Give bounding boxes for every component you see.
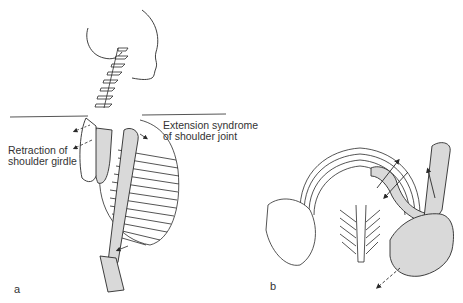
retraction-of-shoulder-girdle-label: Retraction of shoulder girdle xyxy=(8,145,77,167)
label-line-2: of shoulder joint xyxy=(163,131,258,142)
reference-line-right xyxy=(142,114,226,115)
label-line-2: shoulder girdle xyxy=(8,156,77,167)
extension-syndrome-label: Extension syndrome of shoulder joint xyxy=(163,120,258,142)
panel-letter-b: b xyxy=(270,280,276,292)
shoulder-girdle-shaded-b xyxy=(371,143,454,277)
head-outline xyxy=(87,10,158,80)
reference-line-left xyxy=(10,116,88,117)
scapula-outline xyxy=(80,118,96,182)
shoulder-girdle-shaded xyxy=(94,128,138,292)
panel-letter-a: a xyxy=(14,283,20,295)
